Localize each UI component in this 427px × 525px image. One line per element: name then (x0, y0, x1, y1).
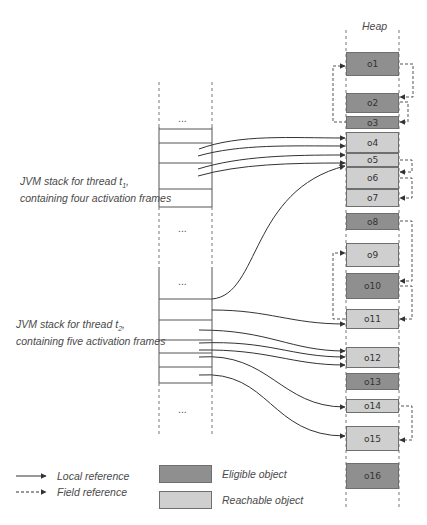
heap-object-o9: o9 (346, 243, 399, 267)
local-references (198, 138, 345, 436)
gc-reachability-diagram: Heap o1o2o3o4o5o6o7o8o9o10o11o12o13o14o1… (0, 0, 427, 525)
heap-object-o2: o2 (346, 93, 399, 113)
heap-object-o7: o7 (346, 189, 399, 207)
heap-object-o12: o12 (346, 347, 399, 368)
legend-eligible-object: Eligible object (222, 468, 287, 481)
legend-reachable-swatch (159, 491, 212, 509)
heap-object-o11: o11 (346, 309, 399, 329)
heap-title: Heap (362, 20, 387, 32)
heap-object-o16: o16 (346, 463, 399, 489)
heap-object-o13: o13 (346, 373, 399, 390)
heap-object-o4: o4 (346, 132, 399, 153)
stack-t2-ellipsis-bottom: ... (178, 403, 187, 416)
legend-eligible-swatch (159, 465, 212, 483)
legend-field-reference: Field reference (57, 486, 127, 499)
heap-object-o8: o8 (346, 213, 399, 230)
stack-t2-label: JVM stack for thread t2, containing five… (16, 318, 165, 348)
heap-object-o15: o15 (346, 426, 399, 451)
heap-object-o14: o14 (346, 399, 399, 413)
heap-object-o3: o3 (346, 116, 399, 129)
heap-object-o6: o6 (346, 167, 399, 189)
legend-local-reference: Local reference (57, 470, 129, 483)
heap-object-o10: o10 (346, 273, 399, 299)
stack-t1-label: JVM stack for thread t1, containing four… (20, 175, 171, 205)
stack-t2-ellipsis-top: ... (178, 275, 187, 288)
heap-object-o1: o1 (346, 52, 399, 76)
stack-t1-ellipsis-top: ... (178, 112, 187, 125)
stack-t1-ellipsis-bottom: ... (178, 222, 187, 235)
legend-reachable-object: Reachable object (222, 494, 303, 507)
legend-lines (16, 476, 46, 492)
heap-object-o5: o5 (346, 153, 399, 167)
